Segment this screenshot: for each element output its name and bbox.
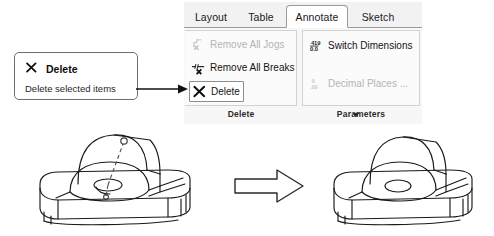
command-switch-dimensions[interactable]: 419 0.0 Switch Dimensions <box>307 35 415 56</box>
command-remove-all-breaks-label: Remove All Breaks <box>210 63 294 73</box>
tab-table-label: Table <box>248 11 274 23</box>
command-decimal-places-label: Decimal Places ... <box>328 79 408 89</box>
command-switch-dimensions-label: Switch Dimensions <box>328 41 412 51</box>
remove-all-breaks-icon <box>191 60 206 75</box>
parameters-panel-label: Parameters <box>337 109 385 119</box>
delete-tooltip-title-row: Delete <box>25 61 78 76</box>
switch-dimensions-icon: 419 0.0 <box>309 38 324 53</box>
delete-tooltip: Delete Delete selected items <box>14 52 138 100</box>
delete-panel-footer[interactable]: Delete <box>185 106 297 122</box>
command-remove-all-jogs-label: Remove All Jogs <box>210 40 284 50</box>
delete-tooltip-description: Delete selected items <box>25 83 116 94</box>
svg-text:0: 0 <box>312 78 315 84</box>
tab-annotate[interactable]: Annotate <box>286 5 348 28</box>
parameters-panel-footer: Parameters <box>302 106 420 122</box>
command-remove-all-breaks[interactable]: Remove All Breaks <box>189 57 297 78</box>
delete-panel: Remove All Jogs Remove All Breaks <box>185 30 297 106</box>
decimal-places-icon: 0 .00 <box>309 76 324 91</box>
model-before <box>18 126 223 236</box>
tab-layout-label: Layout <box>195 11 227 23</box>
command-remove-all-jogs[interactable]: Remove All Jogs <box>189 34 287 55</box>
ribbon-tab-strip: Layout Table Annotate Sketch <box>184 2 422 28</box>
parameters-panel: 419 0.0 Switch Dimensions 0 .00 <box>302 30 420 106</box>
tab-annotate-label: Annotate <box>296 11 339 23</box>
delete-tooltip-title: Delete <box>46 63 78 75</box>
tab-sketch-label: Sketch <box>362 11 395 23</box>
tab-sketch[interactable]: Sketch <box>354 5 402 28</box>
svg-text:419: 419 <box>311 40 321 46</box>
delete-x-icon <box>192 84 207 99</box>
delete-x-icon <box>25 61 40 76</box>
ribbon: Layout Table Annotate Sketch <box>184 2 422 124</box>
svg-text:0.0: 0.0 <box>310 46 318 52</box>
tab-table[interactable]: Table <box>240 5 282 28</box>
ribbon-panel-area: Remove All Jogs Remove All Breaks <box>184 28 422 124</box>
model-after <box>322 128 494 234</box>
command-delete[interactable]: Delete <box>189 81 244 102</box>
screenshot-root: Layout Table Annotate Sketch <box>0 0 494 236</box>
command-decimal-places[interactable]: 0 .00 Decimal Places ... <box>307 73 411 94</box>
delete-panel-label: Delete <box>228 109 255 119</box>
tab-layout[interactable]: Layout <box>188 5 234 28</box>
remove-all-jogs-icon <box>191 37 206 52</box>
arrow-right-pointer-icon <box>136 82 190 96</box>
block-arrow-right-icon <box>233 166 313 206</box>
command-delete-label: Delete <box>211 87 240 97</box>
svg-text:.00: .00 <box>310 84 318 90</box>
